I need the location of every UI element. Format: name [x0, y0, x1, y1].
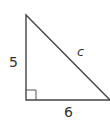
right-angle-marker: [26, 90, 36, 100]
horizontal-leg-label: 6: [64, 104, 73, 120]
right-triangle-diagram: 5 6 c: [0, 0, 110, 120]
hypotenuse-label: c: [77, 44, 84, 59]
triangle-shape: [26, 15, 110, 100]
vertical-leg-label: 5: [9, 54, 18, 70]
